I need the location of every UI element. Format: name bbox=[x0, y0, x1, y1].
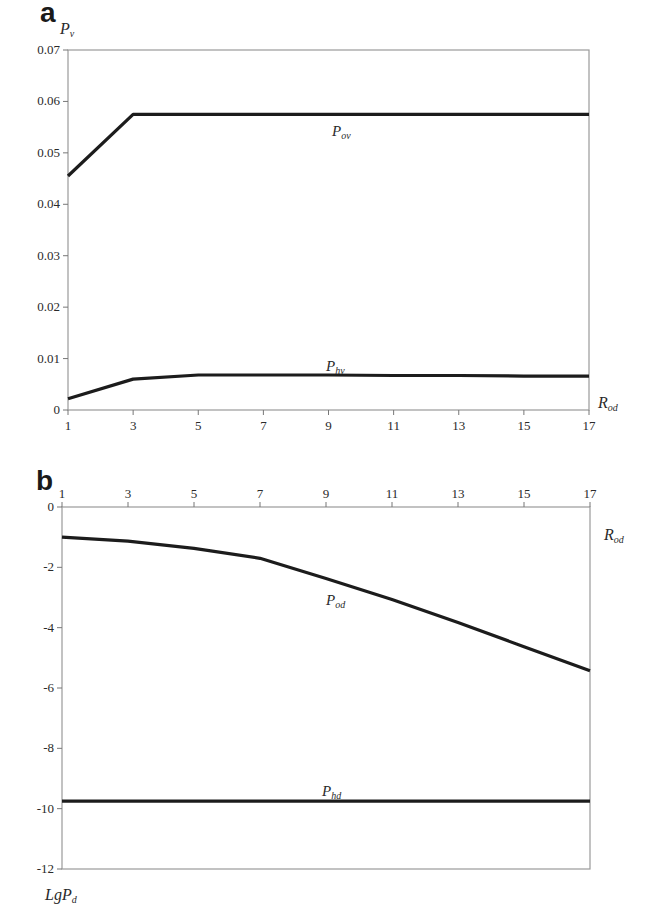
x-tick-label: 9 bbox=[323, 486, 330, 501]
panel-b-y-axis-label: LgPd bbox=[44, 886, 78, 905]
panel-a-plot-frame bbox=[68, 50, 589, 410]
y-tick-label: 0.06 bbox=[37, 93, 60, 108]
y-tick-label: 0.02 bbox=[37, 299, 60, 314]
x-tick-label: 1 bbox=[65, 418, 72, 433]
panel-b-series bbox=[62, 537, 590, 801]
panel-b-x-axis-label: Rod bbox=[603, 526, 625, 545]
y-tick-label: 0.03 bbox=[37, 248, 60, 263]
panel-a-letter: a bbox=[40, 0, 56, 28]
panel-a-chart: a Pv 00.010.020.030.040.050.060.07 13579… bbox=[37, 0, 619, 433]
x-tick-label: 1 bbox=[59, 486, 66, 501]
series-line-p-ov bbox=[68, 114, 589, 176]
plot-border bbox=[68, 50, 589, 410]
series-line-p-hv bbox=[68, 375, 589, 399]
x-tick-label: 11 bbox=[386, 486, 399, 501]
y-tick-label: -12 bbox=[37, 861, 54, 876]
figure: a Pv 00.010.020.030.040.050.060.07 13579… bbox=[0, 0, 650, 911]
x-tick-label: 13 bbox=[452, 486, 465, 501]
y-tick-label: 0.04 bbox=[37, 196, 60, 211]
y-tick-label: -4 bbox=[43, 620, 54, 635]
y-tick-label: 0.05 bbox=[37, 145, 60, 160]
panel-a-y-ticks: 00.010.020.030.040.050.060.07 bbox=[37, 42, 68, 417]
panel-b-plot-frame bbox=[62, 507, 590, 869]
series-label-p-ov: Pov bbox=[331, 123, 351, 141]
x-tick-label: 13 bbox=[452, 418, 465, 433]
y-tick-label: 0 bbox=[54, 402, 61, 417]
panel-a-x-axis-label: Rod bbox=[597, 394, 619, 413]
y-tick-label: -10 bbox=[37, 801, 54, 816]
y-tick-label: -8 bbox=[43, 740, 54, 755]
y-tick-label: -2 bbox=[43, 559, 54, 574]
x-tick-label: 3 bbox=[125, 486, 132, 501]
x-tick-label: 15 bbox=[517, 418, 530, 433]
panel-b-x-ticks: 1357911131517 bbox=[59, 486, 597, 507]
plot-border bbox=[62, 507, 590, 869]
x-tick-label: 7 bbox=[260, 418, 267, 433]
x-tick-label: 7 bbox=[257, 486, 264, 501]
x-tick-label: 5 bbox=[195, 418, 202, 433]
x-tick-label: 3 bbox=[130, 418, 137, 433]
x-tick-label: 17 bbox=[583, 418, 597, 433]
series-label-p-hv: Phv bbox=[325, 358, 345, 376]
y-tick-label: 0.01 bbox=[37, 351, 60, 366]
x-tick-label: 9 bbox=[325, 418, 332, 433]
x-tick-label: 5 bbox=[191, 486, 198, 501]
series-label-p-hd: Phd bbox=[321, 783, 342, 801]
y-tick-label: 0 bbox=[48, 499, 55, 514]
panel-b-y-ticks: 0-2-4-6-8-10-12 bbox=[37, 499, 62, 876]
x-tick-label: 17 bbox=[584, 486, 598, 501]
panel-a-x-ticks: 1357911131517 bbox=[65, 410, 596, 433]
panel-a-series bbox=[68, 114, 589, 398]
x-tick-label: 11 bbox=[387, 418, 400, 433]
panel-a-y-axis-label: Pv bbox=[59, 20, 75, 39]
x-tick-label: 15 bbox=[518, 486, 531, 501]
y-tick-label: -6 bbox=[43, 680, 54, 695]
panel-b-chart: b 0-2-4-6-8-10-12 1357911131517 Pod Phd … bbox=[36, 465, 625, 905]
series-label-p-od: Pod bbox=[325, 592, 346, 610]
panel-b-letter: b bbox=[36, 465, 53, 496]
y-tick-label: 0.07 bbox=[37, 42, 60, 57]
